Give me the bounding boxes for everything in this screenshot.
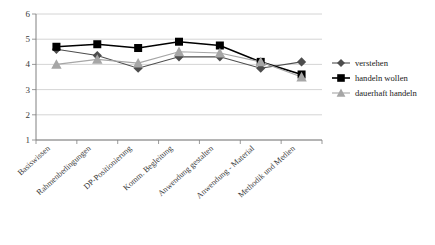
square-marker-icon — [134, 44, 142, 52]
y-tick-label: 4 — [26, 59, 31, 69]
chart-background — [0, 0, 435, 245]
y-tick-label: 2 — [26, 110, 31, 120]
legend-label: verstehen — [355, 58, 389, 68]
square-marker-icon — [52, 43, 60, 51]
legend-label: handeln wollen — [355, 73, 408, 83]
square-marker-icon — [93, 40, 101, 48]
y-tick-label: 1 — [26, 135, 31, 145]
y-tick-label: 3 — [26, 85, 31, 95]
legend-label: dauerhaft handeln — [355, 88, 418, 98]
y-tick-label: 6 — [26, 9, 31, 19]
square-marker-icon — [175, 38, 183, 46]
y-tick-label: 5 — [26, 34, 31, 44]
square-marker-icon — [337, 74, 345, 82]
chart-canvas: 123456 BasiswissenRahmenbedingungenDP-Po… — [0, 0, 435, 245]
line-chart: 123456 BasiswissenRahmenbedingungenDP-Po… — [0, 0, 435, 245]
